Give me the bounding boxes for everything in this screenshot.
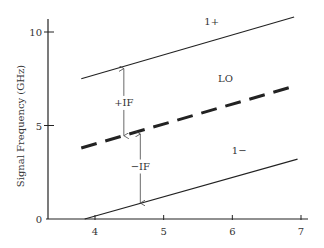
y-tick-label: 10 (29, 27, 42, 38)
series-group: 1+LO1− (81, 16, 297, 219)
series-line-1-plus (81, 17, 294, 79)
x-tick-label: 7 (298, 226, 304, 237)
series-line-1-minus-label: 1− (232, 145, 247, 156)
series-line-1-minus (85, 159, 298, 219)
series-line-lo (81, 86, 294, 148)
x-tick-label: 4 (92, 226, 98, 237)
chart: 05104567 1+LO1− +IF−IF Signal Frequency … (0, 0, 324, 248)
plus-if-label: +IF (114, 97, 133, 108)
series-line-lo-label: LO (218, 73, 233, 84)
y-axis-label: Signal Frequency (GHz) (15, 65, 26, 187)
axes: 05104567 (29, 19, 308, 237)
y-tick-label: 0 (36, 214, 42, 225)
y-tick-label: 5 (36, 121, 42, 132)
series-line-1-plus-label: 1+ (204, 16, 219, 27)
x-tick-label: 6 (229, 226, 235, 237)
minus-if-label: −IF (131, 161, 150, 172)
x-tick-label: 5 (160, 226, 166, 237)
